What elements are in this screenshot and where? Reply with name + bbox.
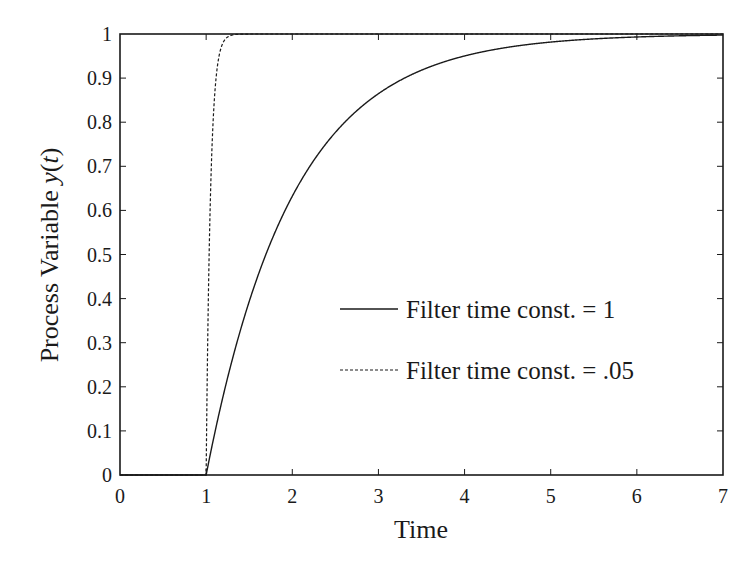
- data-series: [120, 34, 723, 475]
- y-axis-title: Process Variable y(t): [35, 148, 64, 363]
- x-tick-label: 2: [287, 485, 297, 507]
- x-tick-label: 6: [632, 485, 642, 507]
- y-tick-label: 0.5: [87, 244, 112, 266]
- y-tick-label: 0.7: [87, 155, 112, 177]
- y-tick-label: 0.9: [87, 67, 112, 89]
- x-tick-label: 4: [460, 485, 470, 507]
- tick-labels: 0123456700.10.20.30.40.50.60.70.80.91: [87, 23, 728, 507]
- x-axis-title: Time: [394, 515, 448, 544]
- y-tick-label: 0.3: [87, 332, 112, 354]
- legend-label-tau-1: Filter time const. = 1: [406, 296, 615, 323]
- x-tick-label: 5: [546, 485, 556, 507]
- y-tick-label: 0.6: [87, 199, 112, 221]
- y-tick-label: 1: [102, 23, 112, 45]
- x-tick-label: 7: [718, 485, 728, 507]
- legend-label-tau-005: Filter time const. = .05: [406, 357, 634, 384]
- y-tick-label: 0.8: [87, 111, 112, 133]
- x-tick-label: 1: [201, 485, 211, 507]
- x-tick-label: 0: [115, 485, 125, 507]
- y-tick-label: 0: [102, 464, 112, 486]
- y-tick-label: 0.1: [87, 420, 112, 442]
- y-tick-label: 0.2: [87, 376, 112, 398]
- step-response-chart: 0123456700.10.20.30.40.50.60.70.80.91 Ti…: [0, 0, 753, 573]
- plot-frame: [120, 34, 723, 475]
- axis-ticks: [120, 34, 723, 475]
- series-tau-1-line: [120, 35, 723, 475]
- series-tau-005-line: [120, 34, 723, 475]
- x-tick-label: 3: [373, 485, 383, 507]
- legend: Filter time const. = 1 Filter time const…: [340, 296, 634, 384]
- y-tick-label: 0.4: [87, 288, 112, 310]
